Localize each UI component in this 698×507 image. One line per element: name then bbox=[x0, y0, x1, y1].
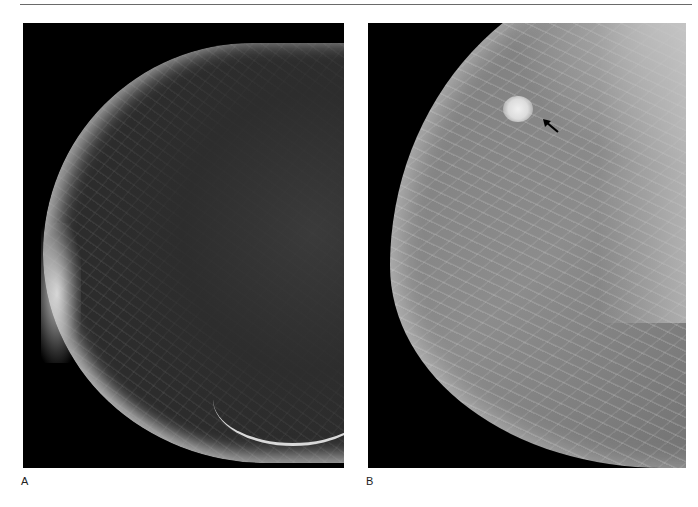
mammogram-panel-a bbox=[23, 23, 344, 468]
mass-lesion-b bbox=[503, 96, 533, 122]
panel-label-b: B bbox=[366, 475, 373, 487]
pectoral-region-b bbox=[598, 23, 686, 323]
header-text-fragment: · · · bbox=[225, 0, 252, 4]
panel-label-a: A bbox=[21, 475, 28, 487]
header-rule bbox=[20, 4, 692, 5]
skin-edge-highlight-a bbox=[41, 223, 81, 363]
mammogram-panel-b bbox=[368, 23, 686, 468]
arrow-up-left-icon bbox=[543, 119, 559, 133]
